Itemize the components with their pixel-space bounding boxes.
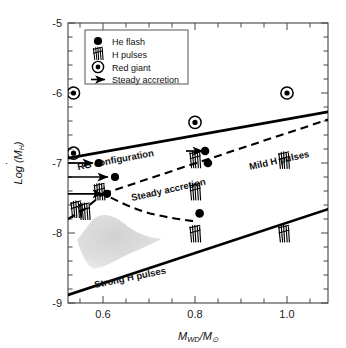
chart-root: -5 -6 -7 -8 -9 0.6 0.8 1.0 Log (MH) ̇ MW… bbox=[0, 0, 346, 348]
y-title-prefix: Log ( bbox=[12, 158, 24, 184]
y-tick-label: -6 bbox=[52, 87, 62, 99]
legend-label-red-giant: Red giant bbox=[112, 63, 151, 73]
x-tick-label: 0.8 bbox=[187, 308, 202, 320]
y-tick-label: -9 bbox=[52, 297, 62, 309]
he-flash-point bbox=[95, 159, 103, 167]
he-flash-point bbox=[201, 147, 210, 156]
legend-label-steady-accretion: Steady accretion bbox=[112, 75, 179, 85]
he-flash-point bbox=[103, 190, 111, 198]
legend-he-flash-icon bbox=[94, 37, 102, 45]
y-tick-label: -7 bbox=[52, 157, 62, 169]
scatter-chart: -5 -6 -7 -8 -9 0.6 0.8 1.0 Log (MH) ̇ MW… bbox=[0, 0, 346, 348]
legend: He flash H pulses Red giant Steady accre… bbox=[85, 30, 188, 85]
he-flash-point bbox=[204, 159, 213, 168]
he-flash-point bbox=[195, 209, 204, 218]
x-title-sun: ⊙ bbox=[212, 335, 219, 344]
legend-label-h-pulses: H pulses bbox=[112, 50, 148, 60]
x-title-div: /M bbox=[199, 330, 213, 342]
x-tick-label: 0.6 bbox=[95, 308, 110, 320]
x-tick-label: 1.0 bbox=[279, 308, 294, 320]
legend-label-he-flash: He flash bbox=[112, 37, 145, 47]
y-tick-label: -8 bbox=[52, 227, 62, 239]
y-tick-label: -5 bbox=[52, 17, 62, 29]
x-title-sub: WD bbox=[187, 335, 200, 344]
he-flash-point bbox=[111, 173, 119, 181]
